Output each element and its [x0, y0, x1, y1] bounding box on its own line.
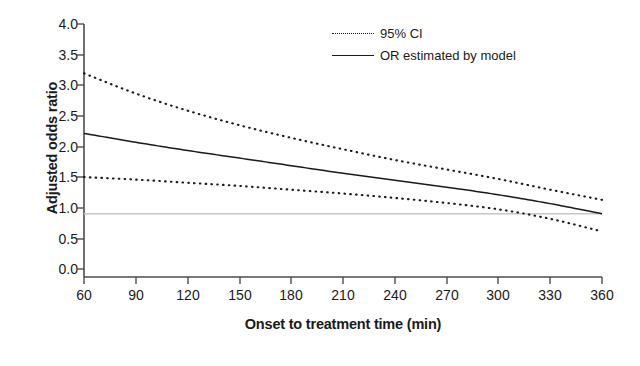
figure-odds-ratio-chart: Adjusted odds ratio 4.0 3.5 3.0 2.5 2.0 … — [0, 0, 640, 366]
x-axis-ticks — [84, 277, 602, 284]
y-axis-ticks — [77, 24, 84, 269]
series-ci-upper — [84, 73, 602, 200]
caption-artifact — [0, 352, 640, 366]
series-ci-lower — [84, 177, 602, 231]
series-or-estimate — [84, 133, 602, 213]
data-series-group — [84, 73, 602, 231]
plot-canvas — [0, 0, 640, 366]
axis-lines — [84, 24, 602, 277]
